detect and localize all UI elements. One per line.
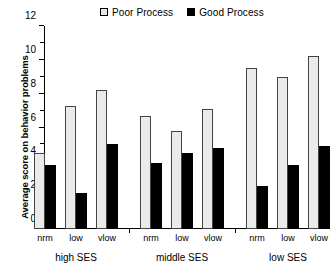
x-axis-group-label: middle SES bbox=[137, 252, 227, 263]
bar-good-process bbox=[288, 165, 299, 229]
open-square-icon bbox=[100, 8, 108, 16]
filled-square-icon bbox=[187, 8, 195, 16]
x-axis-tick-label: nrm bbox=[28, 233, 62, 243]
y-axis-major-tick bbox=[39, 59, 44, 60]
y-axis-tick-label: 4 bbox=[6, 146, 36, 156]
bar-good-process bbox=[107, 144, 118, 229]
bar-poor-process bbox=[96, 90, 107, 229]
y-axis-minor-tick bbox=[40, 76, 44, 77]
bar-poor-process bbox=[308, 56, 319, 229]
y-axis-minor-tick bbox=[40, 143, 44, 144]
x-axis-tick-labels: nrmlowvlownrmlowvlownrmlowvlow bbox=[44, 233, 316, 247]
y-axis-major-tick bbox=[39, 25, 44, 26]
bar-good-process bbox=[45, 165, 56, 229]
plot-area: 024681012 bbox=[44, 26, 316, 229]
bar-good-process bbox=[151, 163, 162, 229]
bar-poor-process bbox=[65, 106, 76, 229]
bar-poor-process bbox=[202, 109, 213, 229]
bar-poor-process bbox=[140, 116, 151, 229]
bar-good-process bbox=[76, 193, 87, 229]
y-axis-tick-label: 10 bbox=[6, 44, 36, 54]
bar-good-process bbox=[257, 186, 268, 229]
y-axis-tick-label: 0 bbox=[6, 214, 36, 224]
x-axis-group-label: high SES bbox=[31, 252, 121, 263]
y-axis-minor-tick bbox=[40, 110, 44, 111]
y-axis-tick-label: 8 bbox=[6, 78, 36, 88]
y-axis-minor-tick bbox=[40, 42, 44, 43]
bar-poor-process bbox=[246, 68, 257, 229]
bar-poor-process bbox=[171, 131, 182, 229]
bar-poor-process bbox=[34, 153, 45, 229]
legend-label-good-process: Good Process bbox=[199, 7, 264, 18]
bar-good-process bbox=[213, 148, 224, 229]
x-axis-tick-label: low bbox=[165, 233, 199, 243]
bar-good-process bbox=[182, 153, 193, 229]
y-axis-major-tick bbox=[39, 93, 44, 94]
legend-label-poor-process: Poor Process bbox=[112, 7, 173, 18]
x-axis-tick-label: nrm bbox=[240, 233, 274, 243]
chart-legend: Poor Process Good Process bbox=[100, 5, 264, 19]
x-axis-group-label: low SES bbox=[243, 252, 333, 263]
bar-poor-process bbox=[277, 77, 288, 229]
x-axis-tick-label: vlow bbox=[302, 233, 334, 243]
x-axis-tick-label: nrm bbox=[134, 233, 168, 243]
x-axis-tick-label: vlow bbox=[196, 233, 230, 243]
x-axis-tick-label: vlow bbox=[90, 233, 124, 243]
legend-entry-poor-process: Poor Process bbox=[100, 7, 173, 18]
legend-entry-good-process: Good Process bbox=[187, 7, 264, 18]
x-axis-tick-label: low bbox=[271, 233, 305, 243]
y-axis-tick-label: 12 bbox=[6, 11, 36, 21]
y-axis-tick-label: 2 bbox=[6, 180, 36, 190]
x-axis-group-labels: high SESmiddle SESlow SES bbox=[44, 252, 316, 266]
bar-good-process bbox=[319, 146, 330, 229]
y-axis-tick-label: 6 bbox=[6, 112, 36, 122]
y-axis-major-tick bbox=[39, 127, 44, 128]
x-axis-tick-label: low bbox=[59, 233, 93, 243]
